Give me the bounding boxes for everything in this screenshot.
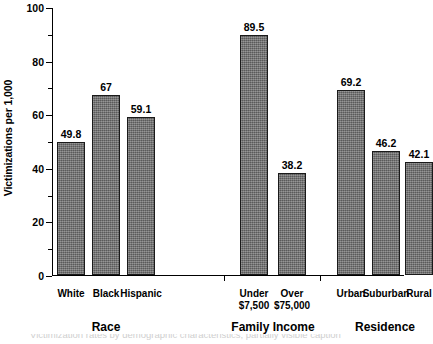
y-tick-mark — [46, 115, 52, 116]
y-tick-label: 20 — [32, 216, 44, 228]
y-tick-label: 40 — [32, 163, 44, 175]
bar-value-label: 42.1 — [409, 148, 429, 160]
bar-hispanic[interactable]: 59.1 — [127, 117, 155, 275]
y-tick-mark — [48, 35, 52, 36]
y-tick-label: 80 — [32, 56, 44, 68]
cat-label-line2: $7,500 — [239, 300, 270, 312]
cat-label-black: Black — [93, 288, 120, 300]
y-tick-mark — [48, 196, 52, 197]
cat-label-over-75000: Over $75,000 — [274, 288, 310, 311]
bar-under-7500[interactable]: 89.5 — [240, 35, 268, 275]
cat-label-suburban: Suburban — [363, 288, 410, 300]
y-tick-mark — [48, 249, 52, 250]
bar-value-label: 89.5 — [244, 21, 264, 33]
y-tick-mark — [46, 222, 52, 223]
cat-label-under-7500: Under $7,500 — [239, 288, 270, 311]
cat-label-urban: Urban — [337, 288, 366, 300]
bar-value-label: 49.8 — [61, 128, 81, 140]
bar-suburban[interactable]: 46.2 — [372, 151, 400, 275]
group-label-family-income: Family Income — [231, 320, 314, 334]
y-tick-label: 100 — [26, 2, 44, 14]
group-label-race: Race — [92, 320, 121, 334]
bar-value-label: 69.2 — [341, 76, 361, 88]
cat-label-line1: Urban — [337, 288, 366, 299]
cat-label-line1: Suburban — [363, 288, 410, 299]
cat-label-line2: $75,000 — [274, 300, 310, 312]
plot-area: 100 80 60 40 — [52, 8, 404, 276]
cutoff-caption-text: Victimization rates by demographic chara… — [30, 334, 341, 340]
y-tick-mark — [46, 8, 52, 9]
cat-label-line1: Hispanic — [120, 288, 162, 299]
x-axis-line — [52, 275, 404, 276]
bar-value-label: 59.1 — [131, 103, 151, 115]
y-tick-mark — [46, 169, 52, 170]
bar-value-label: 46.2 — [376, 137, 396, 149]
y-tick-label: 60 — [32, 109, 44, 121]
cutoff-caption: Victimization rates by demographic chara… — [0, 334, 408, 344]
y-tick-mark — [48, 142, 52, 143]
cat-label-hispanic: Hispanic — [120, 288, 162, 300]
cat-label-line1: Over — [281, 288, 304, 299]
cat-label-line1: White — [57, 288, 84, 299]
x-tick-group-separator — [320, 276, 321, 281]
y-tick-mark — [48, 88, 52, 89]
bar-rural[interactable]: 42.1 — [405, 162, 433, 275]
x-tick-group-separator — [224, 276, 225, 281]
cat-label-line1: Rural — [406, 288, 432, 299]
y-axis-title: Victimizations per 1,000 — [0, 0, 16, 276]
cat-label-white: White — [57, 288, 84, 300]
bar-value-label: 67 — [100, 81, 112, 93]
bar-value-label: 38.2 — [282, 159, 302, 171]
y-axis-title-text: Victimizations per 1,000 — [2, 80, 14, 196]
y-axis-line — [52, 8, 53, 276]
y-tick-label: 0 — [38, 270, 44, 282]
bar-black[interactable]: 67 — [92, 95, 120, 275]
cat-label-rural: Rural — [406, 288, 432, 300]
cat-label-line1: Under — [240, 288, 269, 299]
bar-white[interactable]: 49.8 — [57, 142, 85, 276]
cat-label-line1: Black — [93, 288, 120, 299]
bar-over-75000[interactable]: 38.2 — [278, 173, 306, 275]
group-label-residence: Residence — [355, 320, 415, 334]
y-tick-mark — [46, 62, 52, 63]
bar-urban[interactable]: 69.2 — [337, 90, 365, 276]
y-tick-mark — [46, 276, 52, 277]
